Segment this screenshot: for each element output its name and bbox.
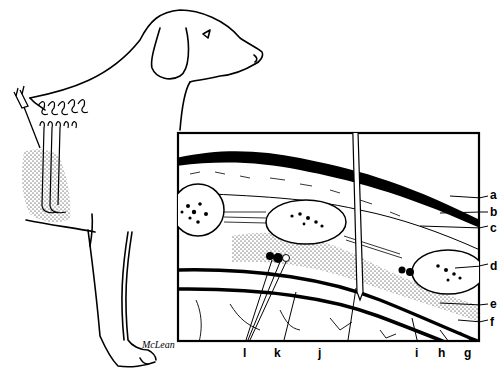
label-f: f (490, 315, 495, 329)
label-g: g (464, 346, 471, 360)
syringe-icon (14, 86, 40, 148)
label-e: e (490, 297, 497, 311)
label-l: l (243, 346, 246, 360)
label-b: b (490, 205, 497, 219)
label-a: a (490, 188, 497, 202)
artist-signature: McLean (141, 339, 175, 350)
label-i: i (415, 346, 418, 360)
label-d: d (490, 259, 497, 273)
label-c: c (490, 221, 497, 235)
label-k: k (274, 346, 281, 360)
anatomical-diagram: a b c d e f g h i j k l McLean (0, 0, 504, 384)
label-h: h (438, 346, 445, 360)
label-j: j (317, 346, 321, 360)
inset-cross-section (172, 100, 488, 352)
thorax-injection-detail (14, 86, 88, 222)
